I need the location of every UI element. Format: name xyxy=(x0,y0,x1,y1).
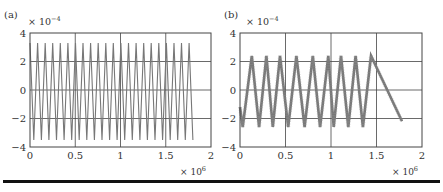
x-tick-label: 2 xyxy=(419,150,425,161)
x-tick-label: 2 xyxy=(208,150,214,161)
x-tick-label: 0.5 xyxy=(278,150,294,161)
y-tick-label: 2 xyxy=(230,56,236,67)
panel-label: (b) xyxy=(224,9,238,20)
y-tick-labels: 420−2−4 xyxy=(11,28,26,153)
x-tick-label: 0 xyxy=(27,150,33,161)
y-tick-label: 4 xyxy=(20,28,26,39)
x-exponent-label: × 106 xyxy=(180,165,206,177)
panel-a: (a)× 10−4420−2−400.511.52× 106 xyxy=(4,9,214,177)
y-tick-label: 0 xyxy=(230,85,236,96)
panel-b: (b)× 10−4420−2−400.511.52× 106 xyxy=(221,9,425,177)
signal-trace xyxy=(30,43,193,140)
panel-label: (a) xyxy=(4,9,18,20)
x-tick-labels: 00.511.52 xyxy=(27,150,214,161)
y-tick-label: −2 xyxy=(11,113,26,124)
y-tick-labels: 420−2−4 xyxy=(221,28,236,153)
y-tick-label: 4 xyxy=(230,28,236,39)
x-tick-label: 0.5 xyxy=(67,150,83,161)
x-tick-label: 1.5 xyxy=(158,150,174,161)
y-tick-label: 0 xyxy=(20,85,26,96)
x-tick-label: 0 xyxy=(237,150,243,161)
y-tick-label: 2 xyxy=(20,56,26,67)
y-exponent-label: × 10−4 xyxy=(246,15,279,27)
y-exponent-label: × 10−4 xyxy=(28,15,61,27)
x-exponent-label: × 106 xyxy=(392,165,418,177)
y-tick-label: −4 xyxy=(11,142,26,153)
figure: (a)× 10−4420−2−400.511.52× 106(b)× 10−44… xyxy=(0,0,443,192)
chart-canvas: (a)× 10−4420−2−400.511.52× 106(b)× 10−44… xyxy=(0,0,443,192)
x-tick-label: 1.5 xyxy=(369,150,385,161)
y-tick-label: −2 xyxy=(221,113,236,124)
x-tick-label: 1 xyxy=(328,150,334,161)
x-tick-label: 1 xyxy=(117,150,123,161)
x-tick-labels: 00.511.52 xyxy=(237,150,425,161)
bottom-rule xyxy=(3,180,440,183)
y-tick-label: −4 xyxy=(221,142,236,153)
